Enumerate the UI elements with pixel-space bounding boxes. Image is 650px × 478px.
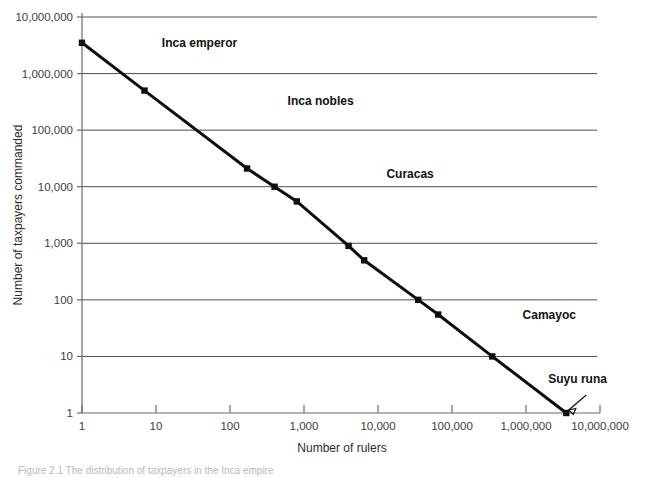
- data-marker-9: [489, 353, 495, 359]
- y-tick-label-1000000: 1,000,000: [22, 68, 73, 80]
- x-tick-label-1: 1: [79, 420, 85, 432]
- y-tick-label-1000: 1,000: [44, 237, 73, 249]
- figure-caption: Figure 2.1 The distribution of taxpayers…: [18, 465, 274, 476]
- y-tick-label-10000: 10,000: [38, 181, 73, 193]
- data-marker-3: [271, 184, 277, 190]
- band-label-camayoc: Camayoc: [523, 308, 577, 322]
- x-tick-label-10000000: 10,000,000: [571, 420, 629, 432]
- y-tick-label-10: 10: [60, 350, 73, 362]
- x-axis-title: Number of rulers: [297, 441, 386, 455]
- data-marker-10: [563, 410, 569, 416]
- data-marker-7: [415, 297, 421, 303]
- band-label-inca-nobles: Inca nobles: [288, 94, 354, 108]
- x-tick-label-1000: 1,000: [290, 420, 319, 432]
- log-log-chart: 1101001,00010,000100,0001,000,00010,000,…: [0, 0, 650, 478]
- band-label-curacas: Curacas: [386, 167, 434, 181]
- y-tick-label-10000000: 10,000,000: [15, 11, 73, 23]
- data-marker-2: [244, 165, 250, 171]
- x-tick-label-10000: 10,000: [360, 420, 395, 432]
- x-tick-label-100000: 100,000: [431, 420, 473, 432]
- data-marker-5: [345, 243, 351, 249]
- y-tick-label-100000: 100,000: [31, 124, 73, 136]
- chart-figure: 1101001,00010,000100,0001,000,00010,000,…: [0, 0, 650, 478]
- data-marker-1: [141, 87, 147, 93]
- y-tick-label-1: 1: [67, 407, 73, 419]
- band-label-suyu-runa: Suyu runa: [548, 372, 607, 386]
- data-marker-4: [294, 198, 300, 204]
- chart-background: [0, 0, 650, 478]
- data-marker-8: [435, 311, 441, 317]
- data-marker-6: [361, 257, 367, 263]
- x-tick-label-10: 10: [150, 420, 163, 432]
- x-tick-label-100: 100: [220, 420, 239, 432]
- y-axis-title: Number of taxpayers commanded: [11, 125, 25, 306]
- x-tick-label-1000000: 1,000,000: [500, 420, 551, 432]
- data-marker-0: [79, 40, 85, 46]
- y-tick-label-100: 100: [54, 294, 73, 306]
- band-label-inca-emperor: Inca emperor: [162, 36, 238, 50]
